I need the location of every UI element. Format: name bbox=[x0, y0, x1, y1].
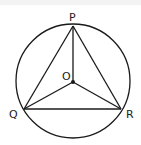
center-point-O bbox=[71, 80, 75, 84]
label-P: P bbox=[69, 11, 76, 24]
side-PQ bbox=[24, 26, 73, 109]
side-PR bbox=[73, 26, 121, 109]
label-Q: Q bbox=[9, 108, 18, 121]
label-R: R bbox=[126, 108, 134, 121]
label-O: O bbox=[62, 70, 71, 83]
geometry-diagram: P O Q R bbox=[0, 0, 141, 145]
